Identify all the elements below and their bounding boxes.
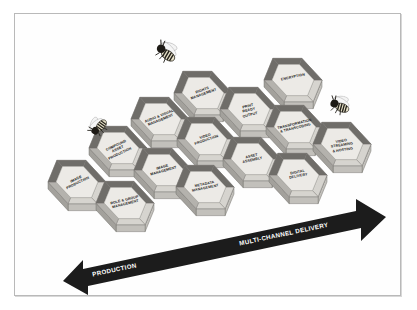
hex-side-wall [68,204,97,211]
diagram-stage: IMAGE PRODUCTIONROLE & GROUP MANAGEMENTC… [15,14,400,295]
hex-side-wall [240,131,269,138]
honeycomb-grid [15,14,400,295]
hex-side-wall [151,141,180,148]
hex-cell-metadata-management[interactable] [176,165,234,215]
hex-side-wall [289,197,318,204]
honeycomb-svg [15,14,400,295]
hex-side-wall [196,209,225,216]
hex-side-wall [333,166,362,173]
diagram-frame: IMAGE PRODUCTIONROLE & GROUP MANAGEMENTC… [14,13,401,296]
hex-side-wall [243,181,272,188]
hex-cell-encryption[interactable] [264,58,322,108]
hex-cell-digital-delivery[interactable] [269,153,327,203]
hex-side-wall [116,225,145,232]
hex-cell-video-streaming-hosting[interactable] [313,122,371,172]
